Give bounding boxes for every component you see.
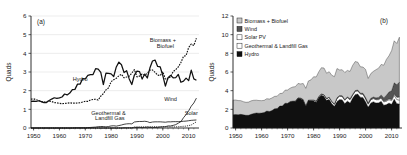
legend-swatch bbox=[237, 43, 242, 48]
xtick-label: 1950 bbox=[27, 132, 41, 139]
legend-swatch bbox=[237, 35, 242, 40]
xtick-label: 1970 bbox=[78, 132, 92, 139]
panel-a-svg: 01234561950196019701980199020002010Quads… bbox=[0, 0, 204, 155]
y-axis-label: Quads bbox=[208, 63, 216, 82]
ytick-label: 10 bbox=[222, 31, 229, 38]
xtick-label: 1990 bbox=[130, 132, 144, 139]
xtick-label: 2010 bbox=[385, 132, 399, 139]
ytick-label: 2 bbox=[225, 106, 229, 113]
ytick-label: 6 bbox=[23, 12, 27, 19]
ytick-label: 6 bbox=[225, 68, 229, 75]
legend-label: Biomass + Biofuel bbox=[245, 18, 288, 24]
panel-b-stacked-area-chart: 0246810121950196019701980199020002010Qua… bbox=[204, 0, 407, 155]
panel-a-line-chart: 01234561950196019701980199020002010Quads… bbox=[0, 0, 204, 155]
legend-swatch bbox=[237, 18, 242, 23]
ytick-label: 0 bbox=[23, 124, 27, 131]
legend-label: Wind bbox=[245, 26, 257, 32]
xtick-label: 2000 bbox=[359, 132, 373, 139]
ytick-label: 0 bbox=[225, 124, 229, 131]
legend-label: Geothermal & Landfill Gas bbox=[245, 43, 309, 49]
xtick-label: 1950 bbox=[229, 132, 243, 139]
xtick-label: 1990 bbox=[333, 132, 347, 139]
annotation-solar: Solar bbox=[185, 110, 198, 116]
renewable-energy-figure: 01234561950196019701980199020002010Quads… bbox=[0, 0, 407, 155]
y-axis-label: Quads bbox=[5, 63, 13, 82]
ytick-label: 12 bbox=[222, 12, 229, 19]
xtick-label: 1980 bbox=[307, 132, 321, 139]
ytick-label: 3 bbox=[23, 68, 27, 75]
panel-tag-a: (a) bbox=[37, 18, 45, 26]
ytick-label: 5 bbox=[23, 31, 27, 38]
legend-label: Hydro bbox=[245, 51, 259, 57]
xtick-label: 2000 bbox=[156, 132, 170, 139]
ytick-label: 8 bbox=[225, 50, 229, 57]
panel-tag-b: (b) bbox=[380, 17, 388, 25]
legend-swatch bbox=[237, 52, 242, 57]
annotation-biomass-biofuel-line1: Biomass + bbox=[150, 37, 176, 43]
annotation-hydro: Hydro bbox=[73, 76, 88, 82]
ytick-label: 2 bbox=[23, 87, 27, 94]
annotation-geothermal-landfill-line2: Landfill Gas bbox=[95, 115, 125, 121]
annotation-wind: Wind bbox=[164, 96, 177, 102]
legend-swatch bbox=[237, 26, 242, 31]
legend-label: Solar PV bbox=[245, 34, 267, 40]
xtick-label: 1960 bbox=[53, 132, 67, 139]
ytick-label: 4 bbox=[225, 87, 229, 94]
xtick-label: 2010 bbox=[182, 132, 196, 139]
xtick-label: 1970 bbox=[281, 132, 295, 139]
ytick-label: 4 bbox=[23, 50, 27, 57]
panel-b-svg: 0246810121950196019701980199020002010Qua… bbox=[204, 0, 407, 155]
xtick-label: 1980 bbox=[104, 132, 118, 139]
series-line bbox=[31, 122, 196, 128]
annotation-biomass-biofuel-line2: Biofuel bbox=[157, 43, 174, 49]
ytick-label: 1 bbox=[23, 106, 27, 113]
xtick-label: 1960 bbox=[255, 132, 269, 139]
